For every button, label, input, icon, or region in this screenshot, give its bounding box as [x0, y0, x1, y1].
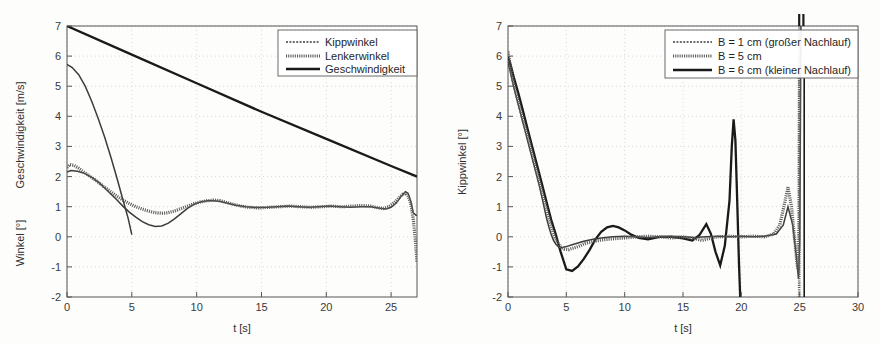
left-yaxis-title-upper: Geschwindigkeit [m/s] [14, 82, 26, 189]
right-chart-svg: 7 6 5 4 3 2 1 0 -1 -2 0 5 [440, 0, 880, 345]
left-xtick-15: 15 [255, 301, 267, 313]
right-ytick-0: 0 [496, 231, 502, 243]
chart-panel-left: 7 6 5 4 3 2 1 0 -1 -2 0 5 10 [0, 0, 440, 345]
legend-label-b6cm: B = 6 cm (kleiner Nachlauf) [718, 64, 851, 76]
right-xtick-0: 0 [505, 301, 511, 313]
legend-label-b1cm: B = 1 cm (großer Nachlauf) [718, 36, 851, 48]
legend-label-kippwinkel: Kippwinkel [325, 36, 378, 48]
series-start-curve [67, 65, 132, 235]
right-xtick-20: 20 [735, 301, 747, 313]
left-xtick-25: 25 [385, 301, 397, 313]
chart-panel-right: 7 6 5 4 3 2 1 0 -1 -2 0 5 [440, 0, 880, 345]
right-legend[interactable]: B = 1 cm (großer Nachlauf) B = 5 cm B = … [665, 30, 858, 78]
figure-root: 7 6 5 4 3 2 1 0 -1 -2 0 5 10 [0, 0, 880, 345]
left-legend[interactable]: Kippwinkel Lenkerwinkel Geschwindigkeit [278, 30, 417, 76]
right-xtick-25: 25 [794, 301, 806, 313]
left-ytick-2: 2 [55, 171, 61, 183]
right-xtick-10: 10 [619, 301, 631, 313]
left-xtick-20: 20 [320, 301, 332, 313]
legend-label-b5cm: B = 5 cm [718, 50, 762, 62]
right-yaxis-title: Kippwinkel [°] [456, 129, 468, 195]
left-ytick-5: 5 [55, 80, 61, 92]
left-ytick-7: 7 [55, 20, 61, 32]
right-xaxis-title: t [s] [674, 322, 692, 334]
right-ytick-4: 4 [496, 110, 502, 122]
left-ytick-6: 6 [55, 50, 61, 62]
right-ytick-3: 3 [496, 140, 502, 152]
legend-label-lenkerwinkel: Lenkerwinkel [325, 50, 389, 62]
left-ytick-3: 3 [55, 140, 61, 152]
left-xtick-0: 0 [64, 301, 70, 313]
right-ytick-1: 1 [496, 201, 502, 213]
right-xtick-30: 30 [852, 301, 864, 313]
right-xtick-5: 5 [563, 301, 569, 313]
left-xaxis-title: t [s] [233, 322, 251, 334]
series-lenkerwinkel [67, 165, 417, 263]
right-xtick-15: 15 [677, 301, 689, 313]
right-x-ticks: 0 5 10 15 20 25 30 [505, 292, 864, 313]
right-ytick-n2: -2 [492, 291, 502, 303]
left-xtick-5: 5 [129, 301, 135, 313]
left-chart-svg: 7 6 5 4 3 2 1 0 -1 -2 0 5 10 [0, 0, 440, 345]
legend-label-geschwindigkeit: Geschwindigkeit [325, 63, 405, 75]
right-ytick-2: 2 [496, 171, 502, 183]
left-y-ticks: 7 6 5 4 3 2 1 0 -1 -2 [51, 20, 72, 303]
right-ytick-6: 6 [496, 50, 502, 62]
right-ytick-5: 5 [496, 80, 502, 92]
right-ytick-7: 7 [496, 20, 502, 32]
left-ytick-n2: -2 [51, 291, 61, 303]
left-ytick-4: 4 [55, 110, 61, 122]
left-yaxis-title-lower: Winkel [°] [14, 220, 26, 267]
left-xtick-10: 10 [191, 301, 203, 313]
left-x-ticks: 0 5 10 15 20 25 [64, 292, 397, 313]
left-ytick-n1: -1 [51, 261, 61, 273]
left-ytick-1: 1 [55, 201, 61, 213]
left-ytick-0: 0 [55, 231, 61, 243]
right-ytick-n1: -1 [492, 261, 502, 273]
